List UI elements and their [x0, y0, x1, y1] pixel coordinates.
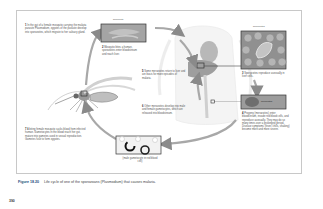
label-gametocyte: (male gametocyte in red blood cell): [120, 157, 160, 164]
step-6: 6 Other merozoites develop into male and…: [142, 105, 186, 115]
step-5: 5 Some merozoites return to liver and ar…: [142, 70, 186, 80]
heart-illustration: [200, 41, 218, 63]
page-number: 390: [9, 199, 15, 203]
label-merozoites: merozoites: [261, 100, 272, 103]
step-1: 1 In the gut of a female mosquito carryi…: [25, 24, 87, 34]
label-sporozoite-top: sporozoite: [113, 18, 124, 21]
step-2: 2 Mosquito bites a human, sporozoites en…: [102, 46, 138, 56]
step-7: 7 A biting female mosquito sucks blood f…: [25, 128, 87, 141]
label-sporozoites-right: sporozoites: [253, 25, 265, 28]
caption-text: Life cycle of one of the sporozoans (Pla…: [44, 180, 156, 184]
step-4: 4 Progeny (merozoites) enter bloodstream…: [242, 112, 290, 132]
figure-label: Figure 18.20: [18, 180, 39, 184]
step-3: 3 Sporozoites reproduce asexually in liv…: [242, 72, 290, 79]
mosquito-illustration: [48, 78, 135, 112]
figure-caption: Figure 18.20Life cycle of one of the spo…: [18, 180, 156, 184]
